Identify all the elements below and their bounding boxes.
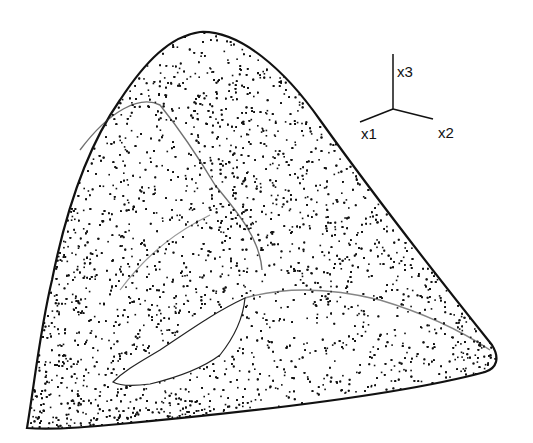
attractor-figure: x3 x1 x2: [0, 0, 533, 443]
axis-x3-label: x3: [397, 63, 413, 80]
axis-x1-label: x1: [361, 125, 377, 142]
axis-x2-line: [393, 109, 433, 119]
attractor-surface: [0, 0, 533, 443]
axis-x1-line: [360, 109, 393, 122]
axes-triad: x3 x1 x2: [360, 54, 454, 142]
axis-x2-label: x2: [438, 124, 454, 141]
